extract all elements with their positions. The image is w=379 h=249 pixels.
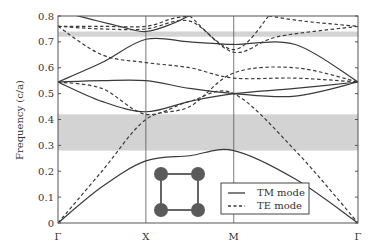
te-band-curve xyxy=(58,16,190,27)
y-tick-label: 0.1 xyxy=(38,192,54,203)
legend: TM mode TE mode xyxy=(221,183,309,214)
y-tick-label: 0 xyxy=(48,218,54,229)
y-tick-label: 0.8 xyxy=(38,11,54,22)
y-tick-label: 0.7 xyxy=(38,36,54,47)
tm-band-curve xyxy=(58,82,358,112)
tm-band-curve xyxy=(58,80,358,97)
tm-band-curve xyxy=(58,38,358,82)
x-tick-label: X xyxy=(142,231,150,242)
unit-cell-square xyxy=(161,174,198,210)
te-band-curve xyxy=(269,16,358,26)
y-tick-label: 0.4 xyxy=(38,114,54,125)
legend-label-tm: TM mode xyxy=(257,187,305,198)
te-band-curve xyxy=(58,82,358,223)
rod-circle xyxy=(191,203,205,217)
y-tick-label: 0.3 xyxy=(38,140,54,151)
band-gap-region xyxy=(58,114,358,150)
x-tick-label: M xyxy=(229,231,239,242)
x-axis-ticks: ΓXMΓ xyxy=(55,231,362,242)
y-tick-label: 0.6 xyxy=(38,62,54,73)
y-tick-label: 0.2 xyxy=(38,166,54,177)
rod-circle xyxy=(154,167,168,181)
x-tick-label: Γ xyxy=(355,231,362,242)
y-tick-label: 0.5 xyxy=(38,88,54,99)
rod-circle xyxy=(191,167,205,181)
band-structure-chart: 00.10.20.30.40.50.60.70.8 ΓXMΓ Frequency… xyxy=(0,0,379,249)
tm-band-curve xyxy=(58,149,358,223)
legend-label-te: TE mode xyxy=(257,200,302,211)
lattice-inset xyxy=(154,167,205,217)
y-axis-label: Frequency (c/a) xyxy=(14,80,25,160)
rod-circle xyxy=(154,203,168,217)
x-tick-label: Γ xyxy=(55,231,62,242)
